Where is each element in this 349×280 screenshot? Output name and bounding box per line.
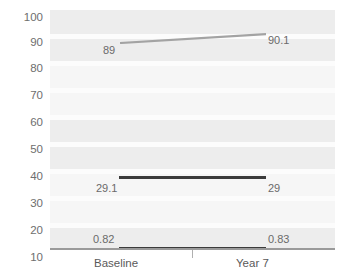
line-chart: 100 90 80 70 60 50 40 30 20 10 89 90.1 2… bbox=[0, 0, 349, 280]
data-label-bottom-left: 0.82 bbox=[93, 234, 114, 245]
data-label-top-right: 90.1 bbox=[268, 35, 289, 46]
plot-area bbox=[50, 10, 335, 249]
y-tick-label: 20 bbox=[30, 225, 43, 237]
data-label-middle-left: 29.1 bbox=[96, 183, 117, 194]
y-tick-label: 80 bbox=[30, 63, 43, 75]
grid-band bbox=[50, 120, 335, 142]
series-line-top bbox=[120, 33, 266, 44]
y-tick-label: 100 bbox=[24, 12, 43, 24]
y-tick-label: 70 bbox=[30, 90, 43, 102]
data-label-middle-right: 29 bbox=[268, 183, 280, 194]
grid-band bbox=[50, 66, 335, 88]
grid-band bbox=[50, 147, 335, 169]
y-tick-label: 50 bbox=[30, 144, 43, 156]
grid-band bbox=[50, 93, 335, 115]
y-axis: 100 90 80 70 60 50 40 30 20 10 bbox=[0, 0, 48, 280]
y-tick-label: 10 bbox=[30, 252, 43, 264]
y-tick-label: 60 bbox=[30, 117, 43, 129]
x-axis-center-tick bbox=[192, 250, 193, 258]
series-line-middle bbox=[119, 176, 266, 179]
data-label-top-left: 89 bbox=[103, 45, 115, 56]
grid-band bbox=[50, 10, 335, 34]
y-tick-label: 40 bbox=[30, 171, 43, 183]
data-label-bottom-right: 0.83 bbox=[268, 234, 289, 245]
x-axis-label-year7: Year 7 bbox=[236, 258, 269, 270]
x-axis-label-baseline: Baseline bbox=[94, 258, 138, 270]
grid-band bbox=[50, 201, 335, 223]
y-tick-label: 30 bbox=[30, 198, 43, 210]
y-tick-label: 90 bbox=[30, 37, 43, 49]
